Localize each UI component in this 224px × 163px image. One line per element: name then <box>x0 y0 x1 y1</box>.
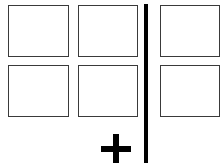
vertical-divider[interactable] <box>144 4 148 163</box>
plus-icon-vertical-bar <box>113 134 119 163</box>
box-row1-col2[interactable] <box>78 5 138 57</box>
box-row1-col1[interactable] <box>8 5 69 57</box>
box-row2-col1[interactable] <box>8 65 69 117</box>
box-row2-col3[interactable] <box>160 65 220 117</box>
box-row2-col2[interactable] <box>78 65 138 117</box>
box-row1-col3[interactable] <box>160 5 220 57</box>
